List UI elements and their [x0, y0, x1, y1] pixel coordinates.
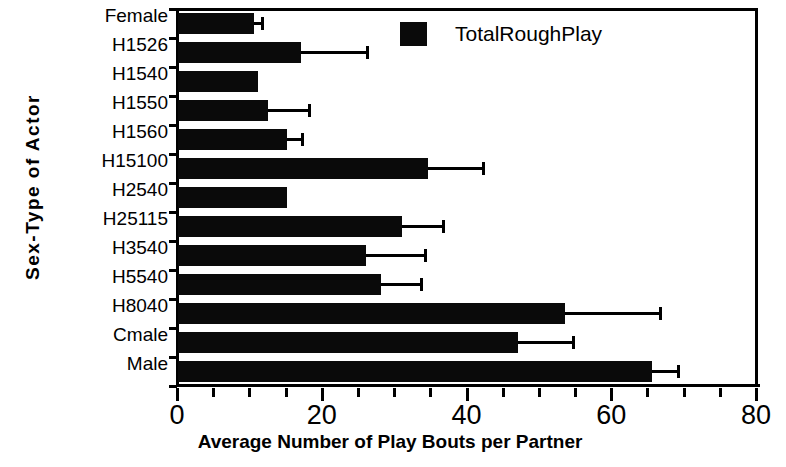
- bar: [178, 13, 254, 34]
- x-axis-tick-label-20: 20: [307, 400, 337, 431]
- error-bar-line: [518, 341, 572, 344]
- bar: [178, 274, 381, 295]
- bar: [178, 245, 366, 266]
- error-bar-cap: [442, 220, 445, 233]
- x-axis-minor-tick: [574, 388, 577, 397]
- bar-row: [178, 361, 756, 382]
- y-axis-tick: [169, 95, 177, 98]
- bar: [178, 332, 518, 353]
- error-bar-cap: [482, 162, 485, 175]
- y-axis-tick: [169, 269, 177, 272]
- category-label-h1550: H1550: [112, 93, 168, 113]
- bar-row: [178, 303, 756, 324]
- bar: [178, 71, 258, 92]
- category-label-cmale: Cmale: [113, 325, 168, 345]
- y-axis-tick: [169, 124, 177, 127]
- y-axis-tick: [169, 298, 177, 301]
- y-axis-tick: [169, 211, 177, 214]
- error-bar-line: [366, 254, 424, 257]
- caption-sliver: [300, 458, 770, 467]
- x-axis-line: [176, 384, 760, 387]
- category-label-h1540: H1540: [112, 64, 168, 84]
- category-label-h2540: H2540: [112, 180, 168, 200]
- x-axis-minor-tick: [502, 388, 505, 397]
- error-bar-cap: [659, 307, 662, 320]
- x-axis-title: Average Number of Play Bouts per Partner: [110, 431, 670, 453]
- x-axis-tick-label-60: 60: [596, 400, 626, 431]
- x-axis-tick-label-80: 80: [741, 400, 771, 431]
- error-bar-line: [565, 312, 659, 315]
- x-axis-minor-tick: [212, 388, 215, 397]
- bar-row: [178, 158, 756, 179]
- bar-row: [178, 245, 756, 266]
- y-axis-tick: [169, 8, 177, 11]
- y-axis-tick: [169, 240, 177, 243]
- y-axis-tick: [169, 66, 177, 69]
- y-axis-tick: [169, 153, 177, 156]
- error-bar-line: [268, 109, 308, 112]
- error-bar-line: [287, 138, 301, 141]
- category-label-h15100: H15100: [101, 151, 168, 171]
- bar-row: [178, 71, 756, 92]
- category-label-h3540: H3540: [112, 238, 168, 258]
- plot-area: [176, 8, 758, 385]
- error-bar-cap: [261, 17, 264, 30]
- x-axis-tick-labels: 020406080: [0, 400, 786, 432]
- x-axis-minor-tick: [646, 388, 649, 397]
- x-axis-minor-tick: [285, 388, 288, 397]
- legend-swatch-totalroughplay: [400, 22, 427, 46]
- x-axis-minor-tick: [429, 388, 432, 397]
- bar-row: [178, 274, 756, 295]
- y-axis-tick: [169, 37, 177, 40]
- x-axis-minor-tick: [357, 388, 360, 397]
- bar-row: [178, 129, 756, 150]
- bar-chart-figure: Sex-Type of Actor FemaleH1526H1540H1550H…: [0, 0, 786, 467]
- chart-legend: TotalRoughPlay: [400, 22, 602, 46]
- error-bar-cap: [366, 46, 369, 59]
- bar-row: [178, 332, 756, 353]
- category-label-h1526: H1526: [112, 35, 168, 55]
- category-label-h1560: H1560: [112, 122, 168, 142]
- error-bar-line: [428, 167, 482, 170]
- x-axis-minor-tick: [719, 388, 722, 397]
- y-axis-tick: [169, 356, 177, 359]
- bar: [178, 187, 287, 208]
- error-bar-line: [402, 225, 442, 228]
- category-label-h25115: H25115: [103, 209, 168, 229]
- y-axis-tick: [169, 182, 177, 185]
- error-bar-line: [652, 370, 677, 373]
- error-bar-line: [381, 283, 421, 286]
- error-bar-cap: [572, 336, 575, 349]
- x-axis-minor-tick: [248, 388, 251, 397]
- bar: [178, 42, 301, 63]
- category-axis-labels: FemaleH1526H1540H1550H1560H15100H2540H25…: [24, 6, 172, 384]
- error-bar-line: [301, 51, 366, 54]
- category-label-female: Female: [105, 6, 168, 26]
- bar: [178, 361, 652, 382]
- error-bar-cap: [677, 365, 680, 378]
- bar: [178, 100, 268, 121]
- bar-row: [178, 187, 756, 208]
- bar: [178, 129, 287, 150]
- bar-row: [178, 216, 756, 237]
- y-axis-tick: [169, 327, 177, 330]
- x-axis-tick-label-0: 0: [169, 400, 184, 431]
- category-label-male: Male: [127, 354, 168, 374]
- category-label-h5540: H5540: [112, 267, 168, 287]
- x-axis-minor-tick: [538, 388, 541, 397]
- legend-label-totalroughplay: TotalRoughPlay: [455, 22, 602, 46]
- error-bar-line: [254, 22, 261, 25]
- x-axis-minor-tick: [393, 388, 396, 397]
- error-bar-cap: [420, 278, 423, 291]
- error-bar-cap: [308, 104, 311, 117]
- bar-row: [178, 100, 756, 121]
- bar: [178, 216, 402, 237]
- bar: [178, 158, 428, 179]
- bar: [178, 303, 565, 324]
- plot-top-border: [176, 8, 758, 11]
- x-axis-minor-tick: [683, 388, 686, 397]
- error-bar-cap: [301, 133, 304, 146]
- category-label-h8040: H8040: [112, 296, 168, 316]
- error-bar-cap: [424, 249, 427, 262]
- x-axis-tick-label-40: 40: [451, 400, 481, 431]
